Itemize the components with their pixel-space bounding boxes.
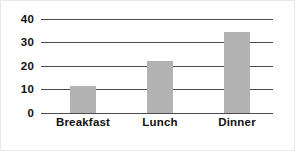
axis-baseline-0 — [41, 113, 273, 114]
ytick-label-40: 40 — [6, 14, 34, 26]
bar-chart-plot-area: 40 30 20 10 0 Breakfast Lunch Dinner — [0, 0, 295, 151]
xtick-label-dinner: Dinner — [200, 117, 274, 129]
xtick-label-breakfast: Breakfast — [43, 117, 123, 129]
ytick-label-30: 30 — [6, 37, 34, 49]
bar-dinner — [224, 32, 250, 113]
gridline-40 — [41, 19, 273, 20]
bar-breakfast — [70, 86, 96, 113]
bar-lunch — [147, 61, 173, 113]
ytick-label-10: 10 — [6, 84, 34, 96]
ytick-label-0: 0 — [6, 108, 34, 120]
ytick-label-20: 20 — [6, 61, 34, 73]
chart-figure: 40 30 20 10 0 Breakfast Lunch Dinner — [0, 0, 295, 151]
xtick-label-lunch: Lunch — [125, 117, 195, 129]
